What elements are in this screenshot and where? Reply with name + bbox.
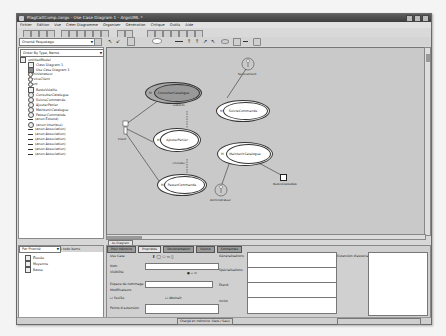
name-input[interactable] <box>145 263 219 270</box>
window-title: PlagCaltComp.zargo - Use Case Diagram 1 … <box>27 15 143 20</box>
usecase-suivre-commande[interactable]: M SuivreCommande <box>216 100 270 122</box>
tree-label: (anon Association) <box>35 147 66 151</box>
usecase-label: MaintenirCatalogue <box>229 152 260 156</box>
extension-points-label: Points d'extension <box>110 306 139 310</box>
includes-label: Inclut <box>219 299 228 303</box>
usecase-marker-icon: M <box>149 91 152 95</box>
specializations-list[interactable] <box>247 267 337 283</box>
actor-icon <box>214 182 228 198</box>
actor-icon <box>241 56 255 72</box>
visibility-radio-icon[interactable]: ● ▫ ▭ <box>187 271 197 275</box>
actor-label: ServiceClient <box>238 72 256 76</box>
tree-label: (anon Association) <box>35 142 66 146</box>
folder-icon <box>25 267 31 273</box>
component-icon[interactable] <box>280 174 287 181</box>
perspective-select[interactable]: Orienté Paquetage ▼ <box>19 38 95 46</box>
usecase-consulter-catalogue[interactable]: M ConsulterCatalogue <box>145 82 202 104</box>
todo-by-select[interactable]: Par Priorité ▼ <box>19 246 61 253</box>
actor-tool-icon[interactable] <box>127 37 135 46</box>
memory-indicator <box>337 318 421 325</box>
argouml-window: PlagCaltComp.zargo - Use Case Diagram 1 … <box>16 13 432 325</box>
extends-list[interactable] <box>247 282 337 298</box>
todo-by-value: Par Priorité <box>22 247 41 251</box>
broom-icon[interactable]: ↙ <box>116 38 122 44</box>
tree-label: (anon Association) <box>35 137 66 141</box>
tree-label: (anon Extend) <box>35 117 58 121</box>
note-tool-icon[interactable] <box>233 38 241 46</box>
actor-client[interactable] <box>120 120 132 136</box>
properties-panel: Pour mémoire Propriétés Documentation So… <box>106 245 431 323</box>
namespace-input[interactable] <box>145 281 213 288</box>
close-button[interactable] <box>422 15 429 22</box>
scroll-thumb[interactable] <box>107 236 142 239</box>
abstract-label: Abstrait <box>169 296 182 300</box>
usecase-tool-icon[interactable] <box>152 38 162 44</box>
association-icon <box>28 154 33 155</box>
status-message: Chargé en mémoire: Stats / Sauv. <box>177 318 233 325</box>
chevron-down-icon: ▼ <box>100 50 102 56</box>
tree-label: (anon Association) <box>35 152 66 156</box>
usecase-label: SuivreCommande <box>229 109 257 113</box>
association-ext-list[interactable] <box>368 252 428 316</box>
actor-service-client[interactable] <box>241 56 253 72</box>
todo-panel: Par Priorité ▼ 1 todo items Élevée Moyen… <box>18 245 104 323</box>
association-icon <box>28 139 33 140</box>
horizontal-scrollbar[interactable] <box>106 234 426 240</box>
generalizations-label: Généralisations <box>219 254 244 258</box>
minimize-button[interactable] <box>406 15 413 22</box>
name-label: Nom <box>110 264 117 268</box>
maximize-button[interactable] <box>414 15 421 22</box>
todo-item-medium[interactable]: Moyenne <box>25 261 48 266</box>
app-icon <box>19 16 24 21</box>
todo-label: Basse <box>33 268 43 272</box>
todo-label: Moyenne <box>33 262 48 266</box>
tab-todo[interactable]: Pour mémoire <box>107 246 136 253</box>
scroll-thumb[interactable] <box>426 54 430 62</box>
shape-tool-icon[interactable] <box>253 38 261 46</box>
tab-constraints[interactable]: Contraintes <box>217 246 242 253</box>
tree-label: (anon Association) <box>35 132 66 136</box>
abstract-checkbox[interactable]: ☐ Abstrait <box>165 296 181 300</box>
config-icon[interactable] <box>94 38 102 46</box>
title-bar: PlagCaltComp.zargo - Use Case Diagram 1 … <box>17 14 431 22</box>
tree-item[interactable]: (anon Association) <box>28 152 66 157</box>
usecase-label: ConsulterCatalogue <box>158 91 190 95</box>
generalizations-list[interactable] <box>247 252 337 268</box>
todo-item-high[interactable]: Élevée <box>25 255 44 260</box>
extend-label: «extend» <box>172 103 185 107</box>
leaf-checkbox[interactable]: ☐ Feuille <box>110 296 124 300</box>
status-bar: Chargé en mémoire: Stats / Sauv. <box>17 317 431 324</box>
todo-label: Élevée <box>33 256 44 260</box>
association-tool-icon[interactable] <box>175 41 183 42</box>
tab-source[interactable]: Source <box>196 246 214 253</box>
usecase-marker-icon: M <box>161 183 164 187</box>
order-select[interactable]: Order By Type, Name ▼ <box>20 49 104 57</box>
tree-label: (anon Association) <box>35 127 66 131</box>
extend-tool-icon[interactable]: ↑ <box>195 38 201 44</box>
association-icon <box>28 149 33 150</box>
include-tool-icon[interactable]: ↗ <box>203 38 209 44</box>
tab-documentation[interactable]: Documentation <box>163 246 194 253</box>
line-tool-icon[interactable] <box>243 41 248 42</box>
todo-item-low[interactable]: Basse <box>25 267 43 272</box>
usecase-maintenir-catalogue[interactable]: M MaintenirCatalogue <box>217 142 273 166</box>
generalization-tool-icon[interactable]: ↑ <box>187 38 193 44</box>
interface-tool-icon[interactable] <box>221 39 229 44</box>
usecase-marker-icon: M <box>157 138 160 142</box>
property-toolbar-icons[interactable]: ⬆ ◯ ⬭ ⇦ ▯ <box>152 254 173 259</box>
includes-list[interactable] <box>247 297 337 314</box>
modifiers-label: Modificateurs <box>110 288 132 292</box>
chevron-down-icon: ▼ <box>57 247 59 252</box>
dependency-tool-icon[interactable]: ↖ <box>211 38 217 44</box>
extension-points-list[interactable] <box>145 304 219 314</box>
actor-administrateur[interactable] <box>214 182 226 198</box>
extend-icon <box>28 119 33 120</box>
usecase-ajouter-panier[interactable]: M AjouterPanier <box>153 128 201 152</box>
diagram-toolbar: Orienté Paquetage ▼ ↖ ↙ ↑ ↑ ↗ ↖ <box>17 37 431 46</box>
usecase-passer-commande[interactable]: M PasserCommande <box>157 174 207 196</box>
diagram-canvas[interactable]: M ConsulterCatalogue «extend» M AjouterP… <box>106 47 426 236</box>
vertical-scrollbar[interactable] <box>424 47 431 236</box>
select-arrow-icon[interactable]: ↖ <box>108 38 114 44</box>
tab-properties[interactable]: Propriétés <box>138 246 161 253</box>
order-value: Order By Type, Name <box>23 51 59 55</box>
